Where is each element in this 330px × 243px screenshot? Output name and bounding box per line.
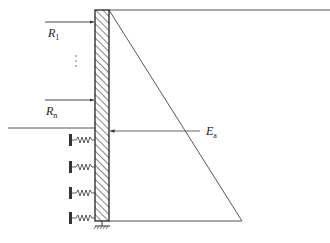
spring-support-2 xyxy=(69,161,95,173)
label-r1: R1 xyxy=(47,26,59,42)
earth-pressure-triangle xyxy=(109,10,242,221)
label-ea: Ea xyxy=(205,124,217,140)
base-pin-support-icon xyxy=(94,221,110,229)
spring-support-1 xyxy=(69,134,95,146)
label-rn: Rn xyxy=(45,104,57,120)
retaining-wall-diagram: R1 Rn Ea xyxy=(0,0,330,243)
spring-support-3 xyxy=(69,187,95,199)
spring-support-4 xyxy=(69,212,95,224)
ellipsis-icon xyxy=(75,55,77,67)
retaining-wall xyxy=(95,10,109,221)
